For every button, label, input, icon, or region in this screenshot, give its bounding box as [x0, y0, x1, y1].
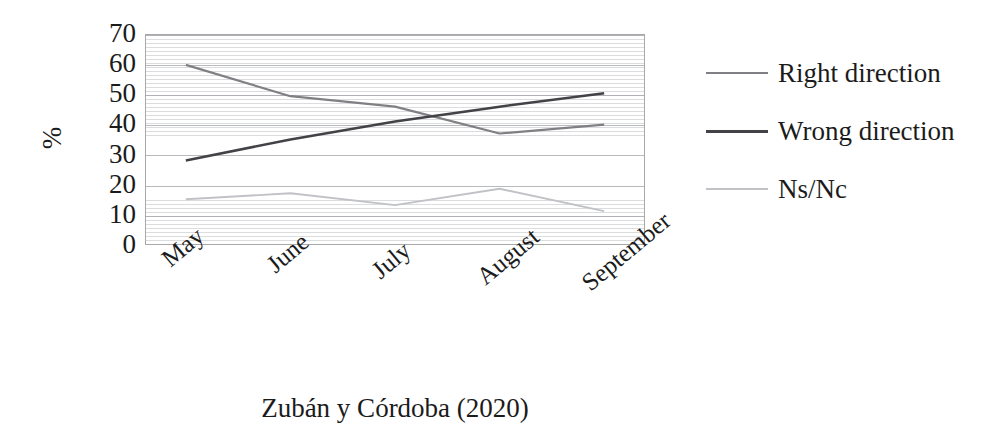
legend-label-right-direction: Right direction: [778, 60, 941, 87]
y-axis-tick-20: 20: [109, 171, 136, 198]
series-line-ns-nc: [186, 189, 604, 211]
series-lines: [146, 35, 644, 244]
y-axis-tick-70: 70: [109, 20, 136, 47]
chart-legend: Right direction Wrong direction Ns/Nc: [706, 48, 996, 208]
legend-item-wrong-direction: Wrong direction: [706, 114, 955, 148]
y-axis-tick-50: 50: [109, 80, 136, 107]
y-axis-tick-60: 60: [109, 50, 136, 77]
y-axis-tick-0: 0: [123, 231, 137, 258]
x-axis-tick-labels: MayJuneJulyAugustSeptember: [145, 248, 665, 363]
legend-label-wrong-direction: Wrong direction: [778, 118, 955, 145]
legend-swatch-wrong-direction: [706, 130, 768, 133]
legend-item-ns-nc: Ns/Nc: [706, 172, 847, 206]
y-axis-tick-40: 40: [109, 110, 136, 137]
series-line-right-direction: [186, 65, 604, 134]
y-axis-tick-labels: 706050403020100: [84, 28, 142, 260]
plot-area: [145, 34, 645, 245]
chart-figure: % 706050403020100 MayJuneJulyAugustSepte…: [0, 0, 1000, 445]
legend-swatch-ns-nc: [706, 188, 768, 190]
y-axis-label: %: [22, 116, 82, 160]
legend-item-right-direction: Right direction: [706, 56, 941, 90]
legend-label-ns-nc: Ns/Nc: [778, 176, 847, 203]
figure-caption: Zubán y Córdoba (2020): [0, 393, 790, 424]
y-axis-tick-30: 30: [109, 141, 136, 168]
series-line-wrong-direction: [186, 93, 604, 160]
legend-swatch-right-direction: [706, 72, 768, 74]
series-group: [186, 65, 604, 211]
y-axis-tick-10: 10: [109, 201, 136, 228]
